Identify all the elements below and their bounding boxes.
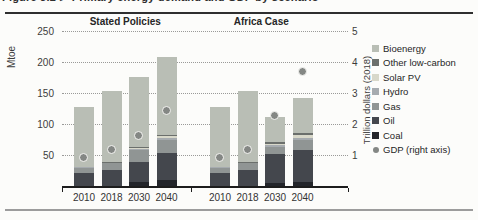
legend-square-marker: [372, 59, 379, 66]
group-label-0: Stated Policies: [90, 16, 161, 27]
bar-segment-hydro: [157, 138, 177, 140]
gdp-dot: [215, 153, 224, 162]
bar-segment-other-low-carbon: [265, 142, 285, 143]
bar-segment-oil: [74, 173, 94, 186]
bar-segment-solar-pv: [129, 147, 149, 148]
right-axis-tick-5: 5: [352, 26, 358, 37]
bar-segment-oil: [265, 154, 285, 183]
right-axis-tick-3: 3: [352, 88, 358, 99]
bar-segment-oil: [157, 153, 177, 180]
bar-segment-hydro: [210, 167, 230, 168]
x-category-label: 2040: [288, 192, 318, 203]
bar-segment-oil: [293, 150, 313, 182]
right-axis-tick-1: 1: [352, 150, 358, 161]
x-category-label: 2018: [97, 192, 127, 203]
gdp-dot: [79, 153, 88, 162]
bar-segment-oil: [210, 173, 230, 186]
bar-segment-bioenergy: [157, 57, 177, 135]
x-category-label: 2030: [260, 192, 290, 203]
bar-segment-gas: [102, 163, 122, 170]
legend-label: Oil: [383, 115, 395, 126]
bar-segment-other-low-carbon: [157, 135, 177, 136]
x-category-label: 2018: [233, 192, 263, 203]
legend-label: GDP (right axis): [383, 144, 450, 155]
bar-segment-gas: [265, 147, 285, 154]
gdp-dot: [298, 67, 307, 76]
bar-segment-oil: [129, 162, 149, 182]
right-axis-title: Trillion dollars (2018): [361, 56, 372, 144]
gridline-250: [62, 31, 348, 32]
bar-segment-hydro: [74, 167, 94, 168]
bar-segment-other-low-carbon: [293, 133, 313, 135]
gdp-dot: [107, 145, 116, 154]
x-axis-line: [62, 186, 348, 188]
x-axis-tick-2: [348, 188, 349, 192]
legend-label: Bioenergy: [383, 43, 426, 54]
bottom-rule: [5, 209, 473, 211]
bar-segment-bioenergy: [265, 117, 285, 142]
x-axis-tick-0: [62, 188, 63, 192]
right-axis-tick-4: 4: [352, 57, 358, 68]
bar-segment-gas: [238, 163, 258, 170]
bar-segment-other-low-carbon: [129, 147, 149, 148]
bar-segment-bioenergy: [293, 98, 313, 133]
legend-label: Hydro: [383, 86, 408, 97]
gdp-dot: [243, 145, 252, 154]
bar-segment-hydro: [293, 138, 313, 140]
gdp-dot: [134, 131, 143, 140]
legend-label: Coal: [383, 130, 403, 141]
gdp-dot: [162, 106, 171, 115]
x-axis-tick-1: [191, 188, 192, 192]
bar-segment-hydro: [129, 149, 149, 150]
x-category-label: 2010: [69, 192, 99, 203]
bar-segment-solar-pv: [157, 136, 177, 138]
clipped-figure-title-text: Figure 3.2 ⊳ Primary energy demand and G…: [2, 0, 474, 4]
legend-square-marker: [372, 45, 379, 52]
figure-canvas: Figure 3.2 ⊳ Primary energy demand and G…: [0, 0, 478, 220]
legend-label: Solar PV: [383, 72, 421, 83]
left-axis-tick-150: 150: [28, 88, 54, 99]
left-axis-tick-200: 200: [28, 57, 54, 68]
left-axis-tick-50: 50: [28, 150, 54, 161]
x-category-label: 2030: [124, 192, 154, 203]
legend-label: Other low-carbon: [383, 57, 456, 68]
bar-segment-gas: [74, 167, 94, 173]
left-axis-title: Mtoe: [6, 46, 17, 68]
bar-segment-hydro: [238, 162, 258, 163]
left-axis-tick-100: 100: [28, 119, 54, 130]
legend-square-marker: [372, 132, 379, 139]
gridline-200: [62, 62, 348, 63]
bar-segment-gas: [293, 140, 313, 151]
x-category-label: 2040: [152, 192, 182, 203]
bar-segment-solar-pv: [293, 135, 313, 138]
top-rule: [5, 12, 473, 14]
legend-square-marker: [372, 103, 379, 110]
bar-segment-gas: [129, 150, 149, 162]
bar-segment-hydro: [102, 162, 122, 163]
bar-segment-oil: [102, 170, 122, 186]
gdp-dot: [270, 111, 279, 120]
bar-segment-gas: [210, 167, 230, 173]
bar-segment-gas: [157, 140, 177, 153]
legend-square-marker: [372, 74, 379, 81]
bar-segment-oil: [238, 170, 258, 186]
x-category-label: 2010: [205, 192, 235, 203]
bar-segment-solar-pv: [265, 144, 285, 146]
group-label-1: Africa Case: [234, 16, 289, 27]
legend-label: Gas: [383, 101, 400, 112]
legend-circle-marker: [373, 147, 379, 153]
legend-square-marker: [372, 88, 379, 95]
left-axis-tick-250: 250: [28, 26, 54, 37]
bar-segment-hydro: [265, 145, 285, 146]
legend-square-marker: [372, 117, 379, 124]
right-axis-tick-2: 2: [352, 119, 358, 130]
clipped-figure-title: Figure 3.2 ⊳ Primary energy demand and G…: [2, 0, 474, 6]
